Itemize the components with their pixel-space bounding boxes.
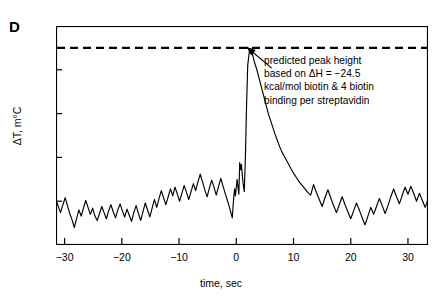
x-axis-title: time, sec	[0, 277, 442, 289]
annotation-line: kcal/mol biotin & 4 biotin	[264, 80, 429, 93]
figure-panel-d: D −0.50.00.51.01.52.0 −30−20−100102030 t…	[0, 0, 442, 301]
x-axis-tick-labels: −30−20−100102030	[0, 250, 442, 270]
annotation-text: predicted peak heightbased on ΔH = −24.5…	[264, 54, 429, 107]
x-tick-label: −30	[56, 252, 74, 263]
annotation-line: based on ΔH = −24.5	[264, 67, 429, 80]
x-tick-label: 30	[402, 252, 414, 263]
x-tick-label: −10	[170, 252, 188, 263]
annotation-line: binding per streptavidin	[264, 94, 429, 107]
x-tick-label: 10	[288, 252, 300, 263]
y-axis-title: ΔT, m°C	[11, 86, 23, 166]
x-tick-label: 20	[345, 252, 357, 263]
annotation-line: predicted peak height	[264, 54, 429, 67]
x-tick-label: 0	[233, 252, 239, 263]
x-tick-label: −20	[113, 252, 131, 263]
